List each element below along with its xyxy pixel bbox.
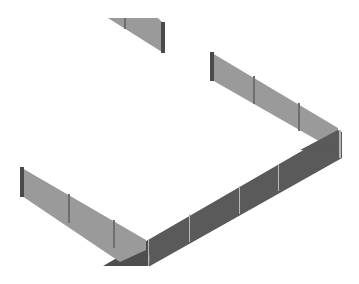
post: [189, 214, 190, 242]
upper-right-fence: [210, 52, 338, 152]
post: [253, 76, 255, 104]
lower-left-fence: [20, 167, 146, 262]
fence-scene: [0, 0, 359, 284]
post: [148, 240, 149, 266]
post: [298, 103, 300, 131]
post: [68, 194, 70, 223]
panel: [212, 53, 338, 152]
top-fragment: [108, 18, 165, 53]
post: [20, 167, 24, 197]
post: [113, 220, 115, 248]
post: [339, 130, 341, 158]
post: [161, 22, 165, 53]
post: [210, 52, 214, 81]
post: [278, 164, 279, 191]
post: [239, 186, 240, 214]
panel: [22, 168, 146, 262]
post: [124, 18, 126, 29]
panel: [108, 18, 162, 52]
